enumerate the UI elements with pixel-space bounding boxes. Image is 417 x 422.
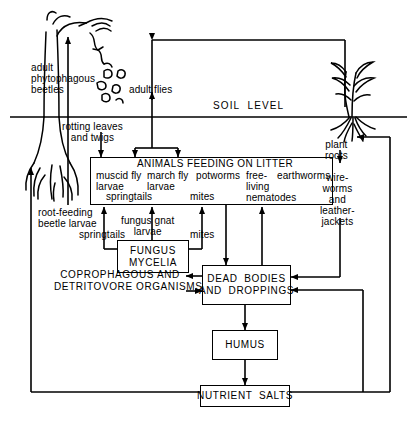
fungus-mycelia-line-2: MYCELIA xyxy=(129,257,177,269)
fungus-mycelia-line-1: FUNGUS xyxy=(130,245,176,257)
humus-box: HUMUS xyxy=(212,330,278,360)
nutrient-salts-line-1: NUTRIENT SALTS xyxy=(197,390,293,402)
litter-member-potworms: potworms xyxy=(196,170,240,181)
springtails-label: springtails xyxy=(79,229,125,240)
litter-member-mites: mites xyxy=(190,191,214,202)
fungus-gnat-larvae-label: fungus gnat larvae xyxy=(121,215,174,237)
coprophagous-line-1: COPROPHAGOUS AND xyxy=(54,269,186,281)
adult-phytophagous-beetles-label: adult phytophagous beetles xyxy=(31,62,95,95)
soil-level-label: SOIL LEVEL xyxy=(213,100,284,111)
dead-bodies-line-2: AND DROPPINGS xyxy=(199,285,294,297)
litter-member-springtails: springtails xyxy=(106,191,152,202)
mites-below-label: mites xyxy=(190,229,214,240)
nutrient-salts-box: NUTRIENT SALTS xyxy=(200,385,290,407)
root-feeding-beetle-larvae-label: root-feeding beetle larvae xyxy=(38,207,97,229)
coprophagous-line-2: DETRITOVORE ORGANISMS xyxy=(54,281,186,293)
coprophagous-detritovore-label: COPROPHAGOUS AND DETRITOVORE ORGANISMS xyxy=(54,269,186,293)
plant-roots-label: plant roots xyxy=(325,139,348,161)
wireworms-and-leatherjackets-label: wire- worms and leather- jackets xyxy=(320,172,355,227)
litter-member-muscid-fly-larvae: muscid fly larvae xyxy=(96,170,141,192)
humus-line-1: HUMUS xyxy=(225,339,265,351)
adult-flies-label: adult flies xyxy=(129,84,172,95)
dead-bodies-and-droppings-box: DEAD BODIES AND DROPPINGS xyxy=(202,265,291,305)
litter-member-march-fly-larvae: march fly larvae xyxy=(147,170,188,192)
rotting-leaves-and-twigs-label: rotting leaves and twigs xyxy=(62,121,123,143)
dead-bodies-line-1: DEAD BODIES xyxy=(207,273,285,285)
animals-feeding-on-litter-title: ANIMALS FEEDING ON LITTER xyxy=(137,158,293,169)
soil-food-web-diagram: SOIL LEVEL adult phytophagous beetles ad… xyxy=(0,0,417,422)
